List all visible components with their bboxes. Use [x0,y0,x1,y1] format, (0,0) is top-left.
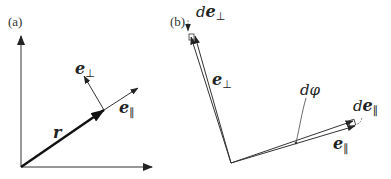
e-perp-label-b: e⊥ [212,70,232,91]
panel-a: (a) r e⊥ e∥ [8,14,152,167]
e-perp-label-a: e⊥ [75,59,95,80]
de-par-pointer [357,118,362,124]
panel-a-label: (a) [8,14,22,29]
e-perp-arrow-b [195,36,231,163]
de-perp-label: de⊥ [196,2,225,23]
e-perp-arrow-a [84,76,104,110]
e-par-label-a: e∥ [119,98,135,119]
e-par-label-b: e∥ [333,134,349,155]
dphi-leader-line [296,98,306,143]
de-par-label: de∥ [353,96,378,117]
dphi-label: dφ [300,81,321,99]
e-perp-rotated-arrow-b [191,37,231,163]
panel-b: (b) de⊥ e⊥ dφ de∥ e∥ [170,2,378,163]
figure-canvas: (a) r e⊥ e∥ (b) [0,0,391,179]
panel-b-label: (b) [170,14,185,29]
de-par-box [348,119,355,126]
r-vector-arrow [21,110,104,167]
